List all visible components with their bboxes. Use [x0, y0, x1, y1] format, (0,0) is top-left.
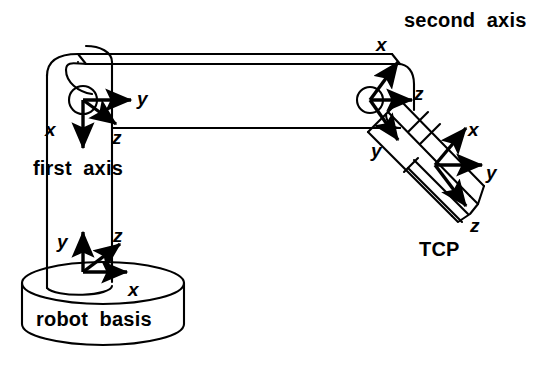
base-z-label: z — [113, 226, 123, 245]
tcp-x-label: x — [468, 120, 479, 139]
base-y-label: y — [57, 232, 68, 251]
tcp-y-label: y — [486, 163, 497, 182]
tcp-x-arrow — [435, 128, 466, 165]
first-axis-y-label: y — [137, 89, 148, 108]
base-z-arrow — [83, 244, 120, 272]
diagram-canvas: y z x y z x x z y x y z first axis secon… — [0, 0, 557, 365]
tcp-z-label: z — [470, 216, 480, 235]
second-axis-x-label: x — [376, 35, 387, 54]
second-axis-joint — [357, 64, 414, 128]
second-axis-x-arrow — [370, 62, 398, 100]
second-axis-y-label: y — [371, 141, 382, 160]
frame-first-axis-arrows — [83, 100, 131, 148]
horizontal-arm — [47, 54, 400, 128]
first-axis-caption: first axis — [33, 158, 123, 178]
robot-basis-caption: robot basis — [36, 309, 152, 329]
first-axis-z-label: z — [112, 128, 122, 147]
gripper-body — [368, 100, 484, 222]
base-x-label: x — [128, 280, 139, 299]
first-axis-x-label: x — [45, 120, 56, 139]
second-axis-caption: second axis — [404, 10, 526, 30]
tcp-caption: TCP — [419, 239, 460, 259]
second-axis-z-label: z — [414, 84, 424, 103]
